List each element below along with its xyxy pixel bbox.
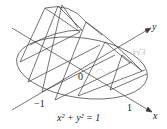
equation-label: x² + y² = 1: [57, 113, 100, 123]
slice-6: [110, 55, 142, 90]
x-axis-arrow-icon: [146, 107, 152, 112]
scribble: [96, 69, 110, 74]
y-axis-arrow-icon: [145, 28, 151, 33]
origin-label: 0: [78, 72, 83, 82]
slice-1: [20, 8, 80, 62]
pos-one-label: 1: [127, 103, 132, 113]
neg-one-label: −1: [34, 99, 45, 109]
solid-diagram: [0, 0, 167, 129]
annotation-label: x√3: [132, 47, 145, 57]
chord: [55, 62, 132, 100]
slice-2: [28, 6, 82, 82]
slice-5: [78, 42, 130, 96]
x-axis-label: x: [153, 111, 157, 121]
y-axis-label: y: [152, 22, 156, 32]
